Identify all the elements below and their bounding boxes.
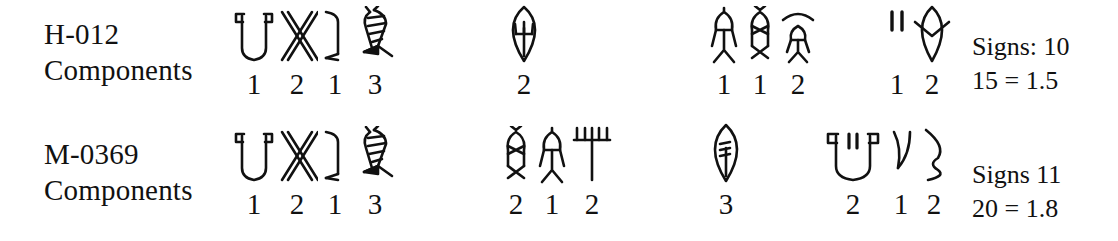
sign-group: 1213: [232, 122, 398, 226]
component-count: 2: [498, 186, 534, 222]
figure-canvas: H-012Components1213211212Signs: 1015 = 1…: [0, 0, 1118, 241]
glyph-line: [232, 122, 398, 184]
inscription-id: H-012: [44, 16, 254, 52]
component-ratio-text: 15 = 1.5: [972, 64, 1070, 98]
inscription-row: H-012Components1213211212Signs: 1015 = 1…: [0, 0, 1118, 120]
two-vertical-strokes-sign: [884, 6, 910, 64]
component-count: 1: [232, 66, 276, 102]
sign-group: 1213: [232, 2, 398, 106]
glyph-line: [884, 2, 954, 64]
components-label: Components: [44, 52, 254, 89]
component-count: 2: [276, 186, 318, 222]
double-person-sign: [742, 6, 778, 64]
component-count: 2: [918, 186, 950, 222]
component-count: 1: [742, 66, 778, 102]
component-count-line: 2: [498, 66, 550, 106]
jar-with-two-prongs-sign: [232, 8, 276, 64]
component-count: 2: [822, 186, 884, 222]
double-x-crossed-sign: [276, 128, 318, 184]
rake-comb-sign: [570, 126, 614, 184]
component-count: 3: [700, 186, 752, 222]
sign-group: 112: [706, 2, 818, 106]
standing-person-sign: [534, 126, 570, 184]
sign-group: 2: [498, 2, 550, 106]
component-ratio-text: 20 = 1.8: [972, 192, 1061, 226]
component-count: 3: [352, 186, 398, 222]
leaf-oval-with-stem-sign: [700, 122, 752, 184]
component-count-line: 112: [706, 66, 818, 106]
jar-with-quotes-sign: [822, 126, 884, 184]
open-hook-sign: [918, 124, 950, 184]
sign-total-text: Signs: 10: [972, 30, 1070, 64]
component-count: 2: [910, 66, 954, 102]
glyph-line: [232, 2, 398, 64]
component-count: 1: [706, 66, 742, 102]
standing-person-sign: [706, 6, 742, 64]
glyph-line: [822, 122, 950, 184]
sign-group: 212: [822, 122, 950, 226]
component-count: 1: [318, 66, 352, 102]
components-label: Components: [44, 172, 254, 209]
glyph-line: [706, 2, 818, 64]
curved-stroke-sign: [884, 126, 918, 184]
component-count-line: 1213: [232, 66, 398, 106]
component-count: 3: [352, 66, 398, 102]
sign-group: 212: [498, 122, 614, 226]
component-count: 2: [778, 66, 818, 102]
component-count: 1: [232, 186, 276, 222]
component-count: 2: [570, 186, 614, 222]
sign-group: 12: [884, 2, 954, 106]
inscription-id: M-0369: [44, 136, 254, 172]
double-person-sign: [498, 126, 534, 184]
hooked-stroke-sign: [318, 128, 352, 184]
jar-with-two-prongs-sign: [232, 128, 276, 184]
glyph-line: [700, 122, 752, 184]
person-under-chevron-sign: [778, 6, 818, 64]
sign-group: 3: [700, 122, 752, 226]
component-count: 2: [276, 66, 318, 102]
component-count-line: 3: [700, 186, 752, 226]
row-label-block: H-012Components: [44, 16, 254, 89]
component-count-line: 212: [822, 186, 950, 226]
double-x-crossed-sign: [276, 8, 318, 64]
tally-block: Signs 1120 = 1.8: [972, 158, 1061, 226]
leaf-oval-with-trident-sign: [498, 4, 550, 64]
hooked-stroke-sign: [318, 8, 352, 64]
component-count-line: 1213: [232, 186, 398, 226]
sign-total-text: Signs 11: [972, 158, 1061, 192]
component-count: 1: [534, 186, 570, 222]
component-count: 1: [884, 66, 910, 102]
striped-fish-sign: [352, 126, 398, 184]
row-label-block: M-0369Components: [44, 136, 254, 209]
striped-fish-sign: [352, 6, 398, 64]
glyph-line: [498, 2, 550, 64]
component-count: 1: [318, 186, 352, 222]
component-count: 2: [498, 66, 550, 102]
component-count: 1: [884, 186, 918, 222]
component-count-line: 12: [884, 66, 954, 106]
inscription-row: M-0369Components12132123212Signs 1120 = …: [0, 120, 1118, 240]
component-count-line: 212: [498, 186, 614, 226]
tally-block: Signs: 1015 = 1.5: [972, 30, 1070, 98]
glyph-line: [498, 122, 614, 184]
leaf-oval-with-notch-sign: [910, 4, 954, 64]
